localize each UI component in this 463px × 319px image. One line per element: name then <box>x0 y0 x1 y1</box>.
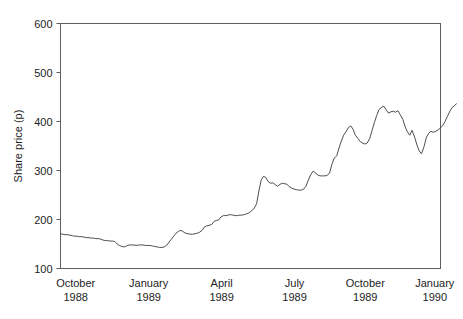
y-tick-label-100: 100 <box>34 263 52 275</box>
x-tick-month-1: January <box>129 277 169 289</box>
y-tick-label-200: 200 <box>34 214 52 226</box>
chart-figure: 100200300400500600 Share price (p) Octob… <box>0 0 463 319</box>
x-tick-month-5: January <box>415 277 455 289</box>
y-tick-label-300: 300 <box>34 165 52 177</box>
x-tick-year-3: 1989 <box>282 291 306 303</box>
x-tick-year-1: 1989 <box>136 291 160 303</box>
y-tick-label-500: 500 <box>34 67 52 79</box>
share-price-line-chart: 100200300400500600 Share price (p) Octob… <box>0 0 463 319</box>
y-tick-label-400: 400 <box>34 116 52 128</box>
x-tick-month-0: October <box>56 277 95 289</box>
x-tick-year-4: 1989 <box>353 291 377 303</box>
y-axis-title: Share price (p) <box>12 110 24 183</box>
y-tick-label-600: 600 <box>34 18 52 30</box>
x-tick-month-3: July <box>285 277 305 289</box>
x-tick-month-2: April <box>211 277 233 289</box>
x-tick-year-5: 1990 <box>423 291 447 303</box>
x-tick-year-2: 1989 <box>209 291 233 303</box>
chart-background <box>0 0 463 319</box>
x-tick-year-0: 1988 <box>63 291 87 303</box>
x-tick-month-4: October <box>346 277 385 289</box>
